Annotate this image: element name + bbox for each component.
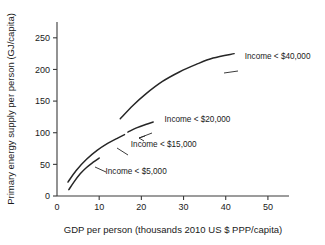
x-tick-label-50: 50 [263, 202, 273, 212]
y-tick-label-100: 100 [35, 128, 50, 138]
series-label-income-40-000: Income < $40,000 [245, 52, 311, 61]
x-tick-label-10: 10 [94, 202, 104, 212]
series-annotations: Income < $40,000Income < $20,000Income <… [106, 52, 311, 176]
leader-line-15000 [117, 148, 128, 155]
chart-figure: 050100150200250 01020304050 Primary ener… [0, 0, 325, 245]
x-axis-ticks: 01020304050 [54, 196, 272, 212]
curve-income-40-000 [120, 54, 234, 119]
y-tick-label-200: 200 [35, 65, 50, 75]
series-label-income-15-000: Income < $15,000 [131, 140, 197, 149]
leader-line-40000 [224, 71, 238, 73]
axes-group [57, 22, 289, 196]
y-tick-label-250: 250 [35, 33, 50, 43]
energy-vs-gdp-chart: 050100150200250 01020304050 Primary ener… [0, 0, 325, 245]
y-axis-title: Primary energy supply per person (GJ/cap… [5, 13, 16, 205]
x-tick-label-0: 0 [54, 202, 59, 212]
x-tick-label-40: 40 [221, 202, 231, 212]
y-tick-label-50: 50 [40, 160, 50, 170]
x-tick-label-20: 20 [136, 202, 146, 212]
y-axis-ticks: 050100150200250 [35, 33, 57, 201]
series-label-income-20-000: Income < $20,000 [165, 115, 231, 124]
x-axis-title: GDP per person (thousands 2010 US $ PPP/… [64, 224, 282, 235]
x-tick-label-30: 30 [179, 202, 189, 212]
y-tick-label-0: 0 [45, 191, 50, 201]
series-label-income-5-000: Income < $5,000 [106, 167, 168, 176]
y-tick-label-150: 150 [35, 96, 50, 106]
leader-line-5000 [95, 167, 106, 172]
curve-income-20-000 [128, 122, 153, 132]
